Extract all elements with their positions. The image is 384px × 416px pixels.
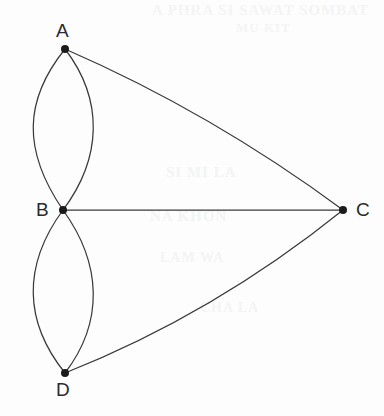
graph-edge-bd-left	[33, 210, 65, 373]
edge-layer	[33, 49, 343, 373]
diagram-canvas: A PHRA SI SAWAT SOMBAT MU KIT SI MI LA N…	[0, 0, 384, 416]
graph-edge-bd-right	[63, 210, 93, 373]
node-label-a: A	[56, 21, 69, 40]
graph-drawing	[0, 0, 384, 416]
node-layer	[59, 45, 347, 377]
graph-edge-ab-left	[33, 49, 65, 210]
graph-edge-dc	[65, 210, 343, 373]
graph-node-c	[339, 206, 347, 214]
node-label-d: D	[56, 380, 70, 399]
graph-node-b	[59, 206, 67, 214]
node-label-c: C	[356, 200, 370, 219]
graph-edge-ab-right	[63, 49, 93, 210]
graph-node-d	[61, 369, 69, 377]
graph-node-a	[61, 45, 69, 53]
graph-edge-ac	[65, 49, 343, 210]
node-label-b: B	[36, 200, 49, 219]
